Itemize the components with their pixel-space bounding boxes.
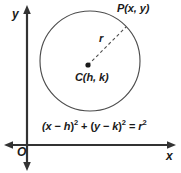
eq-equals: =: [126, 120, 138, 132]
eq-minus-2: −: [100, 120, 112, 132]
circle-outline: [40, 11, 140, 111]
y-axis-arrow-down-icon: [23, 162, 31, 171]
radius-dashed-line: [88, 27, 126, 65]
diagram-canvas: [0, 0, 181, 173]
circle-equation-figure: y x O P(x, y) C(h, k) r (x − h)2 + (y − …: [0, 0, 181, 173]
y-axis-label: y: [12, 8, 19, 20]
circle-standard-equation: (x − h)2 + (y − k)2 = r2: [42, 121, 146, 132]
eq-exponent-3: 2: [142, 118, 146, 127]
center-point-dot: [85, 62, 90, 67]
eq-minus-1: −: [52, 120, 64, 132]
x-axis-arrow-right-icon: [167, 141, 176, 149]
x-axis-label: x: [166, 150, 173, 162]
center-c-label: C(h, k): [75, 72, 109, 83]
y-axis-arrow-up-icon: [23, 5, 31, 14]
eq-plus: +: [78, 120, 90, 132]
radius-label: r: [99, 33, 103, 44]
x-axis: [4, 141, 176, 149]
x-axis-arrow-left-icon: [4, 141, 13, 149]
point-p-label: P(x, y): [117, 3, 149, 14]
origin-label: O: [17, 146, 26, 158]
